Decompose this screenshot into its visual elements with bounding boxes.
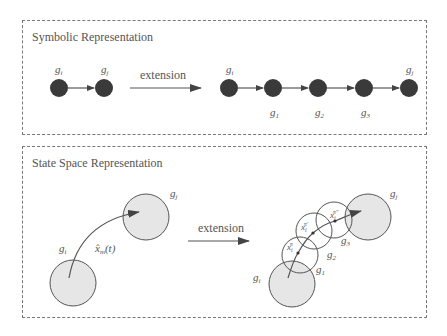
node-g3 <box>355 79 373 97</box>
region-gj <box>123 194 169 240</box>
svg-text:gj: gj <box>170 187 178 201</box>
svg-text:g1: g1 <box>316 263 325 277</box>
node-gj <box>400 79 418 97</box>
svg-text:g1: g1 <box>270 106 279 120</box>
svg-text:g3: g3 <box>341 234 351 248</box>
waypoint-2 <box>311 231 314 234</box>
svg-text:gj: gj <box>390 187 398 201</box>
state-space-left: gi gj x̂m(t) <box>50 187 178 306</box>
node-g1 <box>264 79 282 97</box>
svg-text:g3: g3 <box>361 106 371 120</box>
svg-text:g2: g2 <box>315 106 325 120</box>
region-gi <box>269 261 315 307</box>
svg-text:gj: gj <box>406 63 414 77</box>
waypoint-1 <box>296 251 299 254</box>
diagram-canvas: gi gj extension gi g1 g2 g3 gj gi gj x̂m… <box>0 0 447 336</box>
svg-text:gi: gi <box>59 242 67 256</box>
svg-text:gi: gi <box>253 271 261 285</box>
symbolic-extension-arrow: extension <box>130 68 201 88</box>
node-g2 <box>309 79 327 97</box>
state-space-extension-arrow: extension <box>188 221 249 241</box>
node-gj <box>95 79 113 97</box>
svg-text:xiπ″: xiπ″ <box>329 209 339 221</box>
svg-text:gi: gi <box>226 63 234 77</box>
symbolic-right-chain: gi g1 g2 g3 gj <box>220 63 418 120</box>
node-gi <box>50 79 68 97</box>
svg-text:extension: extension <box>140 68 186 82</box>
svg-text:xiπ: xiπ <box>286 241 294 253</box>
node-gi <box>220 79 238 97</box>
svg-text:extension: extension <box>198 221 244 235</box>
symbolic-left-graph: gi gj <box>50 63 113 97</box>
svg-text:g2: g2 <box>327 248 337 262</box>
svg-text:gi: gi <box>55 63 63 77</box>
svg-text:x̂m(t): x̂m(t) <box>94 242 116 256</box>
region-gi <box>50 260 96 306</box>
state-space-right: xiπ xiπ′ xiπ″ gi g1 g2 g3 gj <box>253 187 398 307</box>
svg-text:gj: gj <box>101 63 109 77</box>
svg-text:xiπ′: xiπ′ <box>300 221 309 233</box>
